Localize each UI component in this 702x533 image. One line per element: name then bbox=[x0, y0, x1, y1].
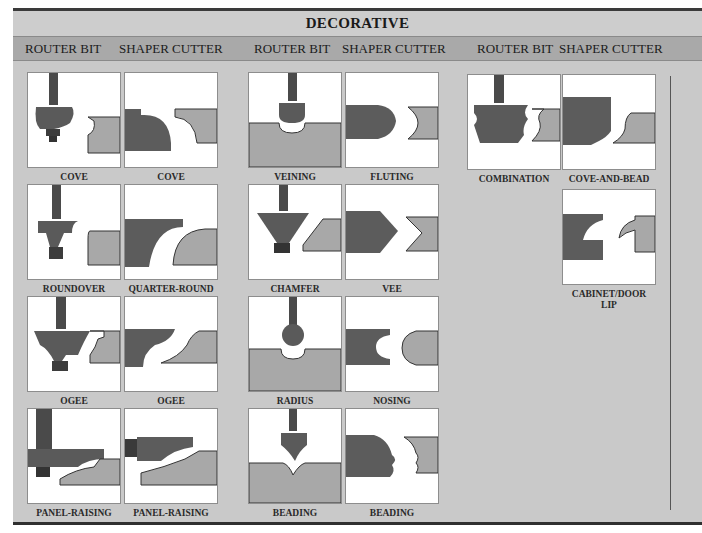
profile-label: CABINET/DOOR bbox=[562, 289, 656, 300]
cove-and-bead-shaper-cutter-icon bbox=[562, 74, 656, 170]
quarter-round-shaper-cutter-icon bbox=[124, 184, 218, 280]
profile-label: QUARTER-ROUND bbox=[124, 284, 218, 295]
column-header-router-bit-1: ROUTER BIT bbox=[25, 41, 101, 57]
profile-cell: FLUTING bbox=[345, 72, 439, 183]
profile-label: PANEL-RAISING bbox=[124, 508, 218, 519]
profile-label: PANEL-RAISING bbox=[27, 508, 121, 519]
ogee-router-bit-icon bbox=[27, 296, 121, 392]
vee-shaper-cutter-icon bbox=[345, 184, 439, 280]
profile-label: OGEE bbox=[27, 396, 121, 407]
profile-cell: COVE-AND-BEAD bbox=[562, 74, 656, 185]
profile-cell: CABINET/DOOR LIP bbox=[562, 189, 656, 311]
profile-label: COMBINATION bbox=[467, 174, 561, 185]
column-header-shaper-cutter-2: SHAPER CUTTER bbox=[342, 41, 446, 57]
profile-cell: VEINING bbox=[248, 72, 342, 183]
profile-cell: CHAMFER bbox=[248, 184, 342, 295]
beading-router-bit-icon bbox=[248, 408, 342, 504]
profile-label: ROUNDOVER bbox=[27, 284, 121, 295]
profile-label: CHAMFER bbox=[248, 284, 342, 295]
profile-cell: RADIUS bbox=[248, 296, 342, 407]
column-header-band: ROUTER BIT SHAPER CUTTER ROUTER BIT SHAP… bbox=[13, 36, 702, 61]
column-divider-line bbox=[670, 76, 671, 510]
ogee-shaper-cutter-icon bbox=[124, 296, 218, 392]
nosing-shaper-cutter-icon bbox=[345, 296, 439, 392]
panel-raising-router-bit-icon bbox=[27, 408, 121, 504]
cove-router-bit-icon bbox=[27, 72, 121, 168]
veining-router-bit-icon bbox=[248, 72, 342, 168]
profile-label: NOSING bbox=[345, 396, 439, 407]
column-header-shaper-cutter-3: SHAPER CUTTER bbox=[559, 41, 663, 57]
profile-label-line-2: LIP bbox=[562, 300, 656, 311]
profile-cell: ROUNDOVER bbox=[27, 184, 121, 295]
page-title: DECORATIVE bbox=[306, 15, 410, 32]
profile-cell: COVE bbox=[124, 72, 218, 183]
cove-shaper-cutter-icon bbox=[124, 72, 218, 168]
title-band: DECORATIVE bbox=[13, 11, 702, 36]
profile-label: COVE bbox=[27, 172, 121, 183]
profile-label: COVE bbox=[124, 172, 218, 183]
column-header-router-bit-2: ROUTER BIT bbox=[254, 41, 330, 57]
profile-label: BEADING bbox=[345, 508, 439, 519]
profile-label: RADIUS bbox=[248, 396, 342, 407]
combination-router-bit-icon bbox=[467, 74, 561, 170]
profile-label: COVE-AND-BEAD bbox=[562, 174, 656, 185]
profile-cell: OGEE bbox=[124, 296, 218, 407]
profile-cell: PANEL-RAISING bbox=[27, 408, 121, 519]
profile-cell: BEADING bbox=[248, 408, 342, 519]
profile-label: BEADING bbox=[248, 508, 342, 519]
profile-cell: VEE bbox=[345, 184, 439, 295]
profile-cell: OGEE bbox=[27, 296, 121, 407]
column-header-shaper-cutter-1: SHAPER CUTTER bbox=[119, 41, 223, 57]
profile-label: OGEE bbox=[124, 396, 218, 407]
profile-label: FLUTING bbox=[345, 172, 439, 183]
profile-label: VEE bbox=[345, 284, 439, 295]
decorative-chart-panel: DECORATIVE ROUTER BIT SHAPER CUTTER ROUT… bbox=[13, 8, 702, 525]
beading-shaper-cutter-icon bbox=[345, 408, 439, 504]
profile-cell: NOSING bbox=[345, 296, 439, 407]
profile-cell: PANEL-RAISING bbox=[124, 408, 218, 519]
roundover-router-bit-icon bbox=[27, 184, 121, 280]
profile-cell: COMBINATION bbox=[467, 74, 561, 185]
fluting-shaper-cutter-icon bbox=[345, 72, 439, 168]
chamfer-router-bit-icon bbox=[248, 184, 342, 280]
profile-label: VEINING bbox=[248, 172, 342, 183]
cabinet-door-lip-shaper-cutter-icon bbox=[562, 189, 656, 285]
profile-cell: COVE bbox=[27, 72, 121, 183]
panel-raising-shaper-cutter-icon bbox=[124, 408, 218, 504]
column-header-router-bit-3: ROUTER BIT bbox=[477, 41, 553, 57]
radius-router-bit-icon bbox=[248, 296, 342, 392]
profile-cell: QUARTER-ROUND bbox=[124, 184, 218, 295]
profile-cell: BEADING bbox=[345, 408, 439, 519]
